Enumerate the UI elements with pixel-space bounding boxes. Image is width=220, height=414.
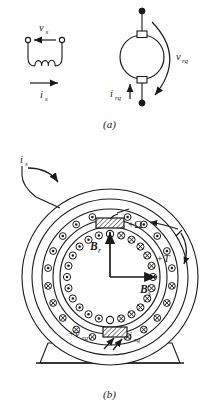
brush-top (96, 218, 124, 228)
stator-conductor-dot (89, 214, 96, 221)
stator-voltage-sub: s (46, 28, 49, 36)
rotor-conductor-cross (128, 311, 135, 318)
machine-brush-bottom (137, 77, 147, 84)
stator-conductor-dot (73, 221, 80, 228)
brush-current-label: i (129, 330, 132, 341)
rotor-current-label: i (110, 88, 113, 99)
rotor-conductor-dot (69, 295, 76, 302)
panel-a: v s i s v rq i (25, 8, 188, 131)
rotor-conductor-cross (144, 252, 151, 259)
panel-b: i s +Ω +T B r B s +v rq i rq (b) (20, 154, 198, 401)
stator-current-sub-b: s (25, 160, 28, 168)
stator-flux-sub: s (148, 289, 151, 298)
rotor-conductor-dot (65, 285, 72, 292)
stator-conductor-cross (168, 282, 175, 289)
stator-current-sub: s (45, 95, 48, 103)
stator-terminal-left (25, 37, 30, 42)
rotor-conductor-dot (69, 252, 76, 259)
stator-conductor-dot (168, 265, 175, 272)
stator-lead-left (28, 43, 35, 66)
machine-terminal-top (139, 8, 145, 14)
caption-a: (a) (103, 118, 116, 131)
rotor-current-sub: rq (115, 94, 121, 102)
stator-lead-right (55, 43, 62, 66)
stator-conductor-cross (140, 326, 147, 333)
machine-body (120, 35, 164, 79)
stator-terminal-right (59, 37, 64, 42)
stator-current-label: i (40, 89, 43, 100)
stator-voltage-label: v (39, 22, 44, 33)
rotor-conductor-cross (118, 232, 125, 239)
rotor-machine (120, 8, 170, 106)
rotor-conductor-dot (95, 232, 102, 239)
speed-label: +Ω (128, 218, 142, 230)
stator-flux-label: B (139, 283, 148, 295)
rotor-conductor-dot (63, 273, 70, 280)
rotor-conductor-cross (137, 304, 144, 311)
rotor-conductor-cross (137, 243, 144, 250)
stator-conductor-dot (50, 248, 57, 255)
stator-coil (35, 60, 55, 66)
stator-current-pointer (28, 168, 58, 182)
stator-circuit (25, 37, 64, 83)
rotor-conductor-cross (148, 262, 155, 269)
stator-conductor-dot (154, 233, 161, 240)
rotor-conductor-dot (95, 315, 102, 322)
rotor-voltage-sub: rq (182, 57, 188, 65)
brush-current-sub: rq (134, 336, 140, 344)
stator-current-leader (22, 166, 60, 208)
rotor-conductor-dot (65, 262, 72, 269)
rotor-conductor-cross (118, 315, 125, 322)
stator-circuit-labels: v s i s (39, 22, 49, 103)
rotor-flux-label: B (89, 240, 98, 252)
brush-bottom (103, 327, 127, 337)
stator-conductor-cross (59, 315, 66, 322)
stator-conductor-cross (45, 282, 52, 289)
rotor-conductor-dot (76, 304, 83, 311)
machine-brush-top (137, 31, 147, 38)
figure-container: v s i s v rq i (0, 0, 220, 414)
stator-current-label-b: i (20, 154, 23, 165)
torque-label: +T (156, 252, 170, 264)
brush-voltage-label: +v (68, 328, 80, 339)
brush-voltage-sub: rq (82, 334, 88, 342)
rotor-conductor-dot (85, 311, 92, 318)
stator-conductor-cross (89, 334, 96, 341)
rotor-conductor-blank (106, 316, 113, 323)
stator-conductor-dot (59, 233, 66, 240)
rotor-conductor-cross (128, 236, 135, 243)
machine-terminal-bottom (139, 100, 145, 106)
stator-conductor-cross (163, 300, 170, 307)
stator-conductor-dot (45, 265, 52, 272)
rotor-voltage-label: v (176, 51, 181, 62)
rotor-conductor-dot (76, 243, 83, 250)
caption-b: (b) (103, 388, 116, 401)
rotor-flux-sub: r (98, 246, 101, 255)
stator-conductor-cross (154, 315, 161, 322)
stator-conductor-cross (50, 300, 57, 307)
